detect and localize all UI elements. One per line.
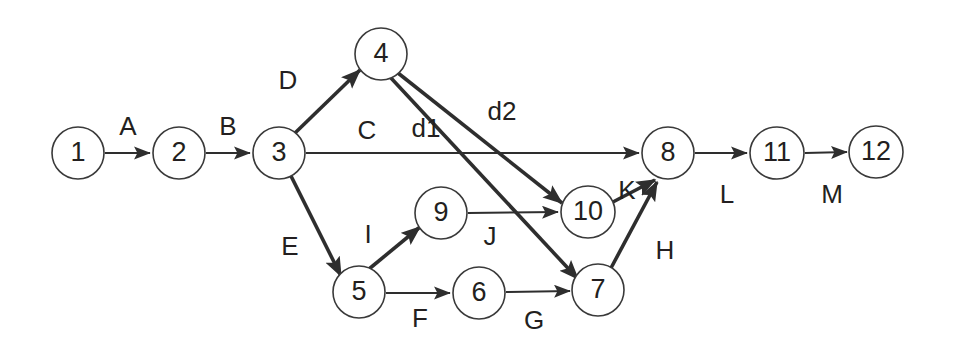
node-5[interactable]: 5 [333, 266, 385, 318]
node-12[interactable]: 12 [849, 126, 903, 178]
node-label-11: 11 [763, 137, 791, 167]
node-label-6: 6 [471, 277, 486, 307]
edge-j [468, 212, 558, 213]
node-label-2: 2 [171, 137, 186, 167]
node-9[interactable]: 9 [415, 187, 467, 239]
edge-label-d: D [279, 65, 298, 95]
network-diagram-canvas: 123456789101112 ABDECd1d2IFJGKHLM [0, 0, 954, 343]
node-4[interactable]: 4 [355, 28, 407, 80]
edge-label-b: B [219, 111, 236, 141]
edge-label-l: L [720, 179, 734, 209]
node-2[interactable]: 2 [153, 127, 205, 179]
node-label-10: 10 [573, 196, 603, 226]
edge-label-j: J [484, 221, 497, 251]
node-label-9: 9 [433, 197, 448, 227]
edge-g [506, 291, 570, 292]
edge-label-d2: d2 [488, 96, 517, 126]
edge-label-k: K [618, 175, 636, 205]
edges-layer [105, 70, 847, 293]
node-label-7: 7 [590, 274, 605, 304]
node-label-5: 5 [351, 276, 366, 306]
node-7[interactable]: 7 [572, 264, 624, 316]
edge-label-g: G [524, 305, 544, 335]
edge-label-c: C [358, 115, 377, 145]
edge-label-d1: d1 [412, 113, 441, 143]
node-1[interactable]: 1 [52, 127, 104, 179]
node-label-4: 4 [373, 38, 388, 68]
node-8[interactable]: 8 [642, 127, 694, 179]
edge-label-i: I [364, 219, 371, 249]
node-label-1: 1 [70, 137, 85, 167]
edge-i [369, 227, 420, 269]
edge-m [805, 152, 847, 153]
node-label-12: 12 [861, 136, 891, 166]
edge-e [291, 176, 341, 276]
node-label-8: 8 [660, 137, 675, 167]
network-diagram: 123456789101112 ABDECd1d2IFJGKHLM [0, 0, 954, 343]
edge-label-m: M [821, 179, 843, 209]
node-10[interactable]: 10 [561, 186, 615, 238]
node-11[interactable]: 11 [750, 127, 804, 179]
edge-label-a: A [119, 111, 137, 141]
node-6[interactable]: 6 [453, 267, 505, 319]
edge-label-f: F [412, 303, 428, 333]
edge-label-e: E [281, 231, 298, 261]
node-3[interactable]: 3 [253, 127, 305, 179]
node-label-3: 3 [271, 137, 286, 167]
edge-d [295, 70, 360, 133]
edge-label-h: H [656, 235, 675, 265]
